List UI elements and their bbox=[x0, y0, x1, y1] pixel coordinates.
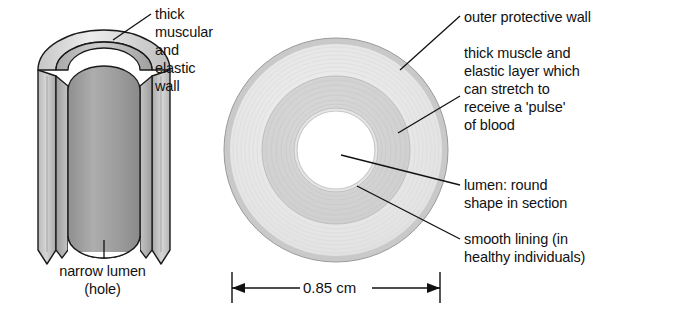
tube-3d-group bbox=[38, 30, 170, 264]
tube-lumen-cavity bbox=[68, 66, 140, 258]
tube-muscle-left-cut bbox=[56, 76, 68, 258]
label-thick-muscular-wall: thick muscular and elastic wall bbox=[155, 5, 213, 95]
label-lumen-round-shape: lumen: round shape in section bbox=[464, 176, 567, 212]
dimension-label: 0.85 cm bbox=[303, 279, 356, 296]
figure-artery-structure: thick muscular and elastic wall narrow l… bbox=[0, 0, 680, 317]
dimension-arrowhead-left bbox=[232, 283, 245, 293]
leader-outer-protective-wall bbox=[400, 16, 460, 70]
tube-muscle-right-cut bbox=[140, 76, 152, 258]
dimension-arrowhead-right bbox=[427, 283, 440, 293]
label-thick-muscle-elastic-layer: thick muscle and elastic layer which can… bbox=[464, 44, 580, 134]
cs-lumen bbox=[297, 111, 375, 189]
label-smooth-lining: smooth lining (in healthy individuals) bbox=[464, 230, 585, 266]
cross-section-group bbox=[224, 38, 448, 262]
label-narrow-lumen: narrow lumen (hole) bbox=[30, 262, 175, 298]
label-outer-protective-wall: outer protective wall bbox=[464, 8, 591, 26]
